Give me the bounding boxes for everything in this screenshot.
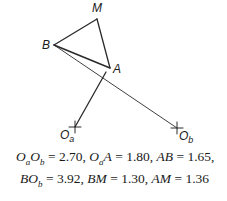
point-label-Ob: Ob — [179, 129, 193, 145]
segment-AOa — [75, 72, 106, 127]
equation-line-2: BOb = 3.92, BM = 1.30, AM = 1.36 — [20, 171, 209, 189]
segment-MA — [97, 19, 110, 68]
equation-line-1: OaOb = 2.70, OaA = 1.80, AB = 1.65, — [16, 149, 214, 167]
point-label-M: M — [92, 1, 102, 15]
point-label-A: A — [113, 62, 121, 76]
point-label-Oa: Oa — [60, 128, 74, 144]
segment-BM — [54, 19, 97, 45]
point-label-B: B — [42, 38, 50, 52]
segment-BOb — [54, 45, 177, 128]
segment-BA — [54, 45, 110, 68]
